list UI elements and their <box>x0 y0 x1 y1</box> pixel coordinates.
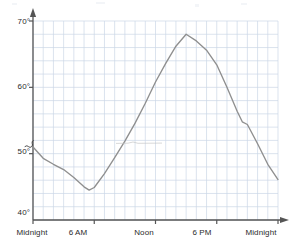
scan-speck-top-mid <box>96 2 105 4</box>
y-tick-label-50: 50° <box>6 147 30 156</box>
y-tick-label-40: 40° <box>6 208 30 217</box>
y-axis-arrowhead <box>30 8 36 17</box>
y-tick-label-70: 70° <box>6 17 30 26</box>
x-tick-label-midnight-end: Midnight <box>232 228 290 237</box>
temperature-line-chart: 70° 60° 50° 40° Midnight 6 AM Noon 6 PM … <box>0 0 293 245</box>
x-tick-label-6pm: 6 PM <box>180 228 224 237</box>
axis-lines <box>30 8 289 223</box>
scan-speck-top-far-right <box>241 3 247 5</box>
scan-artifact-line <box>116 142 162 143</box>
x-tick-label-6am: 6 AM <box>56 228 100 237</box>
scan-speck-top-right <box>195 4 199 7</box>
x-tick-label-noon: Noon <box>122 228 166 237</box>
scan-speck-top-left <box>12 3 17 5</box>
y-tick-label-60: 60° <box>6 82 30 91</box>
chart-canvas <box>0 0 293 245</box>
x-tick-label-midnight-start: Midnight <box>3 228 61 237</box>
x-axis-arrowhead <box>280 217 289 223</box>
scan-artifact <box>116 142 162 143</box>
